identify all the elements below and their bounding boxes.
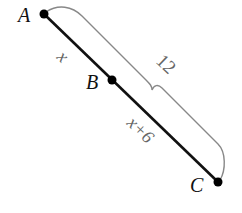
segment-diagram: A B C x x+6 12 xyxy=(0,0,242,213)
point-a xyxy=(40,10,49,19)
point-b xyxy=(108,76,117,85)
point-c xyxy=(214,178,223,187)
label-ab: x xyxy=(53,46,73,67)
brace-ac xyxy=(46,7,224,180)
segment-ac xyxy=(44,14,218,182)
label-bc: x+6 xyxy=(123,112,159,147)
label-b: B xyxy=(86,71,98,93)
label-ac-length: 12 xyxy=(152,50,180,78)
label-a: A xyxy=(16,4,31,26)
label-c: C xyxy=(190,174,204,196)
